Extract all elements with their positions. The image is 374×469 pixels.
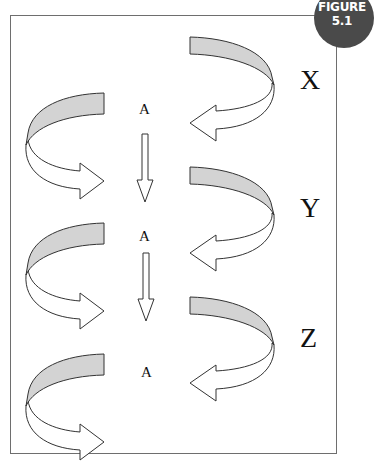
curved-arrow-left-2	[26, 223, 104, 329]
down-arrow-1	[137, 134, 153, 202]
curved-arrow-left-1	[26, 93, 104, 199]
label-x: X	[300, 64, 320, 96]
figure-badge-label: FIGURE 5.1	[316, 0, 368, 28]
curved-arrow-y	[190, 167, 274, 271]
down-arrow-2	[138, 253, 154, 321]
label-a-2: A	[139, 228, 150, 245]
curved-arrow-left-3	[26, 354, 104, 460]
curved-arrow-x	[190, 37, 274, 141]
figure-badge-title: FIGURE	[316, 0, 368, 14]
label-a-3: A	[141, 364, 152, 381]
label-y: Y	[300, 192, 320, 224]
label-z: Z	[300, 322, 317, 354]
curved-arrow-z	[190, 297, 274, 401]
figure-badge-number: 5.1	[316, 14, 368, 28]
label-a-1: A	[139, 101, 150, 118]
